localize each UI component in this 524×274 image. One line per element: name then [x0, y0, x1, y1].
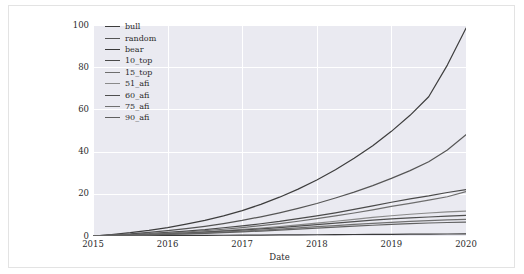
- legend-swatch-icon: [105, 49, 120, 50]
- chart-legend: bullrandombear10_top15_top51_afi60_afi75…: [105, 21, 156, 124]
- legend-swatch-icon: [105, 83, 120, 84]
- legend-label: 90_afi: [125, 113, 149, 122]
- legend-swatch-icon: [105, 38, 120, 39]
- legend-item-random: random: [105, 32, 156, 43]
- x-tick-label: 2020: [446, 239, 486, 249]
- legend-swatch-icon: [105, 72, 120, 73]
- legend-label: 75_afi: [125, 102, 149, 111]
- legend-swatch-icon: [105, 95, 120, 96]
- figure-frame: 020406080100 201520162017201820192020 Da…: [8, 5, 515, 268]
- legend-item-15_top: 15_top: [105, 67, 156, 78]
- legend-swatch-icon: [105, 106, 120, 107]
- y-axis-tick-labels: 020406080100: [61, 25, 89, 236]
- x-tick-label: 2018: [297, 239, 337, 249]
- legend-swatch-icon: [105, 60, 120, 61]
- legend-item-75_afi: 75_afi: [105, 101, 156, 112]
- legend-swatch-icon: [105, 26, 120, 27]
- legend-label: bull: [125, 22, 140, 31]
- legend-item-10_top: 10_top: [105, 55, 156, 66]
- legend-label: random: [125, 34, 156, 43]
- figure: 020406080100 201520162017201820192020 Da…: [0, 0, 524, 274]
- legend-item-90_afi: 90_afi: [105, 112, 156, 123]
- y-tick-label: 40: [63, 147, 89, 156]
- legend-item-60_afi: 60_afi: [105, 89, 156, 100]
- x-tick-label: 2019: [371, 239, 411, 249]
- x-axis-title: Date: [93, 252, 466, 262]
- line-series-random: [93, 135, 466, 236]
- legend-swatch-icon: [105, 117, 120, 118]
- legend-label: 51_afi: [125, 79, 149, 88]
- y-tick-label: 80: [63, 63, 89, 72]
- x-tick-label: 2015: [73, 239, 113, 249]
- legend-label: 15_top: [125, 68, 152, 77]
- legend-item-bear: bear: [105, 44, 156, 55]
- x-tick-label: 2016: [148, 239, 188, 249]
- y-tick-label: 100: [63, 21, 89, 30]
- x-axis-tick-labels: 201520162017201820192020: [93, 239, 466, 253]
- legend-item-51_afi: 51_afi: [105, 78, 156, 89]
- y-tick-label: 20: [63, 189, 89, 198]
- legend-label: 10_top: [125, 56, 152, 65]
- legend-label: bear: [125, 45, 143, 54]
- legend-item-bull: bull: [105, 21, 156, 32]
- x-tick-label: 2017: [222, 239, 262, 249]
- y-tick-label: 60: [63, 105, 89, 114]
- legend-label: 60_afi: [125, 91, 149, 100]
